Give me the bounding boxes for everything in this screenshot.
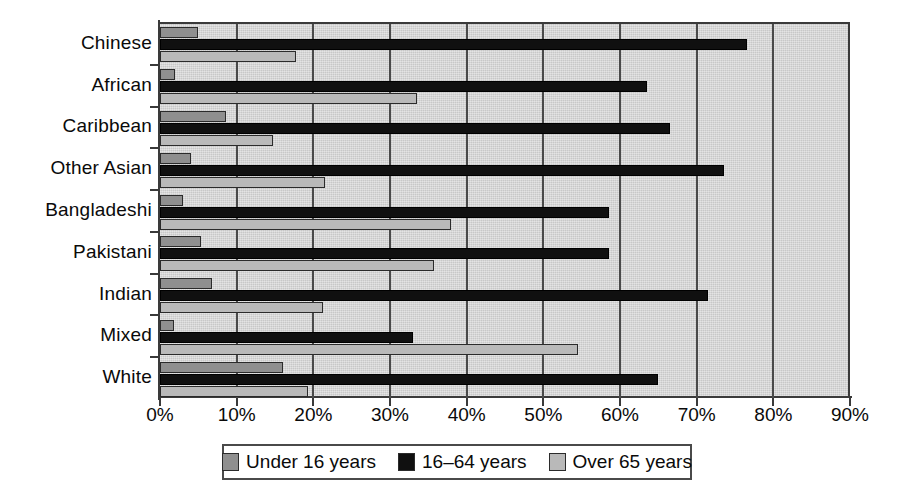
bar-chinese-16-64-years <box>160 39 747 50</box>
y-axis-tick <box>150 231 159 233</box>
y-axis-label-bangladeshi: Bangladeshi <box>0 200 152 219</box>
bar-other-asian-under-16-years <box>160 153 191 164</box>
y-axis-label-african: African <box>0 75 152 94</box>
x-axis-tick-label-0%: 0% <box>128 404 192 426</box>
y-axis-tick <box>150 273 159 275</box>
y-axis-tick <box>150 314 159 316</box>
bar-bangladeshi-under-16-years <box>160 195 183 206</box>
gridline-70% <box>696 24 698 398</box>
gridline-90% <box>849 24 850 398</box>
bar-caribbean-over-65-years <box>160 135 273 146</box>
y-axis-category-labels: ChineseAfricanCaribbeanOther AsianBangla… <box>0 22 152 398</box>
legend-item-under-16-years[interactable]: Under 16 years <box>222 452 376 472</box>
x-axis-tick-label-70%: 70% <box>665 404 729 426</box>
legend-swatch-icon <box>398 453 415 471</box>
y-axis-label-other-asian: Other Asian <box>0 158 152 177</box>
bar-white-over-65-years <box>160 386 308 397</box>
legend-item-over-65-years[interactable]: Over 65 years <box>549 452 692 472</box>
gridline-60% <box>619 24 621 398</box>
y-axis-label-indian: Indian <box>0 284 152 303</box>
x-axis-tick-labels: 0%10%20%30%40%50%60%70%80%90% <box>0 404 907 432</box>
y-axis-label-pakistani: Pakistani <box>0 242 152 261</box>
x-axis-tick-label-60%: 60% <box>588 404 652 426</box>
y-axis-tick <box>150 147 159 149</box>
legend-label: Under 16 years <box>246 452 376 472</box>
bar-other-asian-16-64-years <box>160 165 724 176</box>
bar-indian-16-64-years <box>160 290 708 301</box>
legend-label: Over 65 years <box>573 452 692 472</box>
chart-legend: Under 16 years16–64 yearsOver 65 years <box>222 444 692 480</box>
bar-mixed-over-65-years <box>160 344 578 355</box>
grouped-bar-chart: ChineseAfricanCaribbeanOther AsianBangla… <box>0 0 907 502</box>
bar-african-under-16-years <box>160 69 175 80</box>
x-axis-tick-label-10%: 10% <box>205 404 269 426</box>
y-axis-label-white: White <box>0 367 152 386</box>
bar-pakistani-under-16-years <box>160 236 201 247</box>
bar-indian-under-16-years <box>160 278 212 289</box>
x-axis-tick-label-30%: 30% <box>358 404 422 426</box>
bar-african-over-65-years <box>160 93 417 104</box>
bar-chinese-over-65-years <box>160 51 296 62</box>
bar-bangladeshi-16-64-years <box>160 207 609 218</box>
bar-chinese-under-16-years <box>160 27 198 38</box>
y-axis-tick <box>150 106 159 108</box>
legend-swatch-icon <box>549 453 566 471</box>
legend-label: 16–64 years <box>422 452 527 472</box>
x-axis-tick-label-90%: 90% <box>818 404 882 426</box>
x-axis-tick-label-80%: 80% <box>741 404 805 426</box>
bar-indian-over-65-years <box>160 302 323 313</box>
x-axis-tick-label-40%: 40% <box>435 404 499 426</box>
bar-mixed-under-16-years <box>160 320 174 331</box>
bar-caribbean-under-16-years <box>160 111 226 122</box>
bar-african-16-64-years <box>160 81 647 92</box>
y-axis-tick <box>150 356 159 358</box>
y-axis-label-mixed: Mixed <box>0 325 152 344</box>
y-axis-tick <box>150 189 159 191</box>
bar-pakistani-16-64-years <box>160 248 609 259</box>
bar-caribbean-16-64-years <box>160 123 670 134</box>
x-axis-tick-label-20%: 20% <box>281 404 345 426</box>
plot-area <box>160 22 850 398</box>
bar-white-16-64-years <box>160 374 658 385</box>
bar-mixed-16-64-years <box>160 332 413 343</box>
legend-item-16-64-years[interactable]: 16–64 years <box>398 452 527 472</box>
y-axis-tick <box>150 64 159 66</box>
bar-pakistani-over-65-years <box>160 260 434 271</box>
bar-bangladeshi-over-65-years <box>160 219 451 230</box>
gridline-80% <box>772 24 774 398</box>
y-axis-label-caribbean: Caribbean <box>0 116 152 135</box>
bar-white-under-16-years <box>160 362 283 373</box>
y-axis-label-chinese: Chinese <box>0 33 152 52</box>
legend-swatch-icon <box>222 453 239 471</box>
x-axis-tick-label-50%: 50% <box>511 404 575 426</box>
bar-other-asian-over-65-years <box>160 177 325 188</box>
